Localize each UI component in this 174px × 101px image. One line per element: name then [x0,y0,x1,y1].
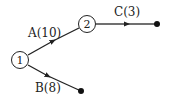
edge-b-label: B(8) [35,81,61,95]
node-2: 2 [79,16,96,33]
edge-a-label: A(10) [27,26,61,40]
edge-b-endpoint [78,88,84,94]
edge-c-label: C(3) [114,5,140,19]
node-1: 1 [12,52,29,69]
node-1-label: 1 [17,54,24,67]
node-2-label: 2 [84,18,91,31]
network-diagram: A(10) B(8) C(3) 1 2 [0,0,174,101]
edge-c-endpoint [154,21,160,27]
